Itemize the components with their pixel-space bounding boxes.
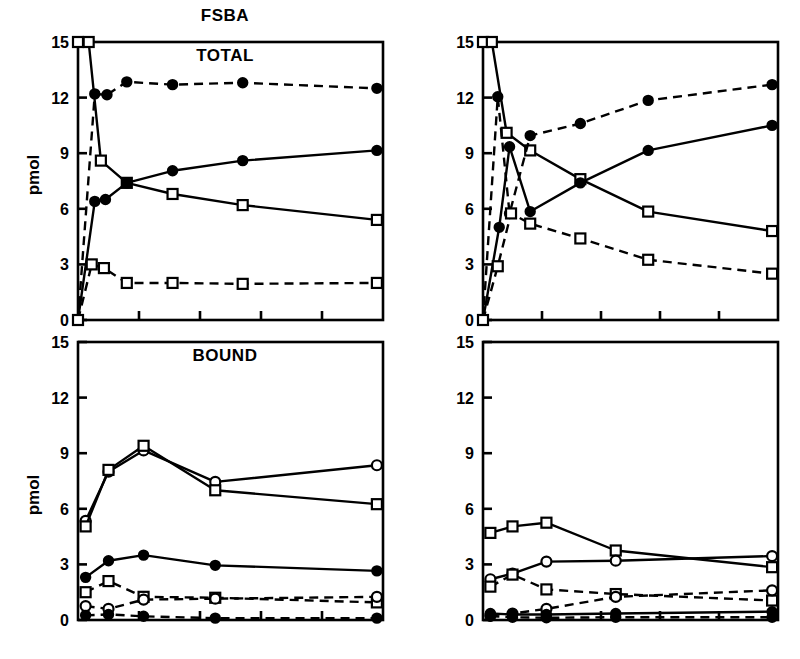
marker-filled-circle	[768, 613, 777, 622]
marker-open-square	[767, 596, 777, 606]
marker-filled-circle	[211, 614, 220, 623]
marker-filled-circle	[81, 573, 90, 582]
marker-filled-circle	[90, 89, 99, 98]
marker-open-square	[139, 441, 149, 451]
series-line-filled-circle-solid-line	[78, 150, 377, 320]
y-tick-label: 15	[456, 34, 474, 51]
marker-filled-circle	[101, 195, 110, 204]
series-line-open-square-dashed-line	[78, 264, 377, 320]
marker-open-square	[73, 37, 83, 47]
marker-open-square	[122, 278, 132, 288]
y-tick-label: 3	[465, 256, 474, 273]
marker-filled-circle	[238, 78, 247, 87]
marker-open-circle	[210, 594, 220, 604]
marker-open-square	[99, 263, 109, 273]
series-line-filled-circle-dashed-line	[86, 614, 377, 618]
marker-filled-circle	[372, 146, 381, 155]
plot-frame	[483, 42, 778, 320]
marker-open-square	[506, 208, 516, 218]
y-tick-label: 9	[60, 445, 69, 462]
series-line-open-square-solid-line	[78, 42, 377, 220]
y-tick-label: 12	[51, 90, 69, 107]
panel-fsba-total: FSBA TOTAL pmol 03691215	[0, 0, 400, 330]
marker-open-square	[104, 465, 114, 475]
series-line-open-circle-solid-line	[86, 450, 377, 520]
marker-filled-circle	[576, 119, 585, 128]
marker-open-square	[372, 499, 382, 509]
marker-filled-circle	[372, 84, 381, 93]
marker-filled-circle	[168, 80, 177, 89]
panel-header-fsba: FSBA	[170, 6, 280, 26]
marker-filled-circle	[104, 556, 113, 565]
plot-fsba-bound: 03691215	[0, 330, 400, 659]
marker-filled-circle	[542, 613, 551, 622]
y-axis-label-left-top: pmol	[24, 140, 44, 210]
y-tick-label: 12	[456, 390, 474, 407]
y-tick-label: 9	[465, 145, 474, 162]
marker-filled-circle	[122, 77, 131, 86]
marker-open-circle	[767, 551, 777, 561]
series-line-open-circle-solid-line	[490, 556, 772, 579]
marker-open-square	[643, 207, 653, 217]
marker-open-circle	[372, 460, 382, 470]
y-tick-label: 0	[60, 612, 69, 629]
marker-open-square	[767, 226, 777, 236]
marker-open-square	[372, 215, 382, 225]
marker-open-square	[575, 233, 585, 243]
marker-open-square	[81, 521, 91, 531]
marker-filled-circle	[495, 223, 504, 232]
marker-filled-circle	[508, 613, 517, 622]
marker-open-circle	[767, 585, 777, 595]
marker-open-circle	[372, 592, 382, 602]
marker-filled-circle	[81, 611, 90, 620]
y-tick-label: 9	[60, 145, 69, 162]
y-tick-label: 12	[456, 90, 474, 107]
marker-filled-circle	[768, 80, 777, 89]
marker-open-square	[238, 279, 248, 289]
y-tick-label: 3	[60, 556, 69, 573]
marker-filled-circle	[526, 131, 535, 140]
marker-open-square	[168, 189, 178, 199]
y-tick-label: 3	[60, 256, 69, 273]
plot-fsbi-total: 03691215	[400, 0, 800, 330]
marker-open-square	[372, 278, 382, 288]
marker-open-square	[767, 269, 777, 279]
marker-filled-circle	[90, 197, 99, 206]
marker-filled-circle	[238, 156, 247, 165]
marker-filled-circle	[168, 166, 177, 175]
y-tick-label: 3	[465, 556, 474, 573]
marker-open-square	[104, 576, 114, 586]
y-tick-label: 0	[465, 312, 474, 329]
y-tick-label: 6	[60, 201, 69, 218]
marker-open-square	[485, 528, 495, 538]
y-tick-label: 15	[51, 334, 69, 351]
marker-open-square	[84, 37, 94, 47]
panel-fsbi-bound: BOUND pmol 03691215	[400, 330, 800, 659]
marker-filled-circle	[644, 146, 653, 155]
marker-open-square	[508, 521, 518, 531]
marker-filled-circle	[505, 142, 514, 151]
y-tick-label: 6	[60, 501, 69, 518]
marker-open-square	[611, 546, 621, 556]
marker-filled-circle	[576, 178, 585, 187]
marker-open-square	[487, 37, 497, 47]
marker-open-square	[493, 261, 503, 271]
marker-filled-circle	[139, 612, 148, 621]
marker-filled-circle	[102, 90, 111, 99]
y-tick-label: 15	[51, 34, 69, 51]
marker-filled-circle	[211, 561, 220, 570]
marker-open-square	[87, 259, 97, 269]
marker-open-square	[96, 156, 106, 166]
marker-open-square	[168, 278, 178, 288]
marker-filled-circle	[122, 178, 131, 187]
panel-fsba-bound: BOUND pmol 03691215	[0, 330, 400, 659]
panel-title-total-left: TOTAL	[160, 46, 290, 66]
series-line-filled-circle-dashed-line	[490, 616, 772, 617]
marker-filled-circle	[644, 96, 653, 105]
plot-fsbi-bound: 03691215	[400, 330, 800, 659]
marker-open-circle	[611, 592, 621, 602]
marker-open-square	[508, 570, 518, 580]
marker-open-square	[767, 562, 777, 572]
marker-open-square	[541, 518, 551, 528]
y-tick-label: 6	[465, 201, 474, 218]
